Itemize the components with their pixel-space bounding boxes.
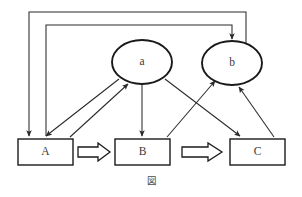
node-label-C: C [254, 145, 262, 157]
node-label-A: A [41, 145, 50, 157]
figure-caption: 図 [147, 175, 157, 186]
edge-B-to-b [167, 81, 215, 137]
edge-C-to-b [239, 87, 274, 137]
block-arrow-a-to-b-flow [78, 143, 110, 161]
edge-a-to-C [165, 79, 240, 136]
node-label-B: B [139, 145, 147, 157]
diagram-canvas: a b A B C 図 [0, 0, 302, 197]
node-label-b: b [229, 56, 235, 68]
block-arrow-b-to-c-flow [182, 143, 222, 161]
edge-a-to-A [46, 79, 119, 136]
figure-diagram: a b A B C 図 [0, 0, 302, 197]
node-label-a: a [139, 55, 144, 67]
